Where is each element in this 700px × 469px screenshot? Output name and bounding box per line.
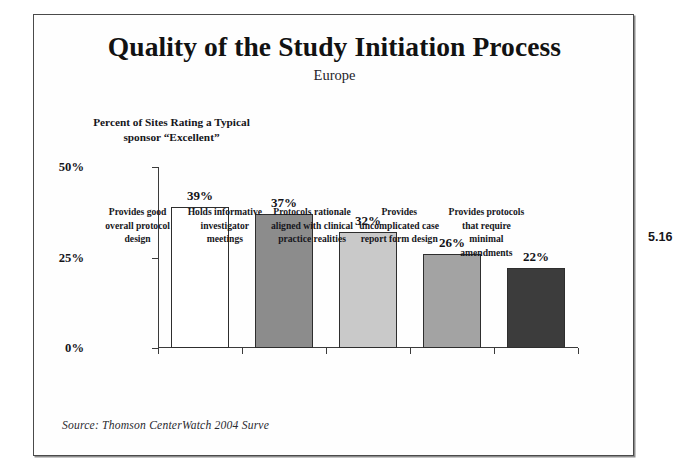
plot-wrap: 0%25%50% 39%37%32%26%22% xyxy=(90,167,590,367)
x-axis-category-label: Providesuncomplicated casereport form de… xyxy=(356,205,443,257)
x-axis-category-label-line: practice realities xyxy=(269,232,354,246)
bar[interactable] xyxy=(423,254,481,348)
title-block: Quality of the Study Initiation Process … xyxy=(34,33,635,84)
y-axis-caption: Percent of Sites Rating a Typical sponso… xyxy=(64,115,279,145)
x-axis-category-label-line: meetings xyxy=(182,232,267,246)
x-axis-category-label-line: Provides xyxy=(357,205,442,219)
bar-slot: 37% xyxy=(242,167,326,348)
y-axis-tick-label: 25% xyxy=(0,250,84,265)
y-axis-caption-line-2: sponsor “Excellent” xyxy=(123,131,219,143)
x-axis-category-label-line: Provides good xyxy=(95,205,180,219)
bar-slot: 39% xyxy=(158,167,242,348)
x-axis-tick-mark xyxy=(494,348,495,354)
x-axis-category-label-line: report form design xyxy=(357,232,442,246)
x-axis-category-label-line: amendments xyxy=(444,246,529,260)
x-axis-tick-mark xyxy=(158,348,159,354)
x-axis-category-label: Provides goodoverall protocoldesign xyxy=(94,205,181,257)
page-number: 5.16 xyxy=(648,230,672,244)
x-axis-tick-mark xyxy=(242,348,243,354)
x-axis-category-label-line: Holds informative xyxy=(182,205,267,219)
x-axis-category-label-line: Protocols rationale xyxy=(269,205,354,219)
x-axis-category-label-line: aligned with clinical xyxy=(269,219,354,233)
y-axis-tick-label: 50% xyxy=(0,160,84,175)
x-axis-category-label-line: that require minimal xyxy=(444,219,529,246)
x-axis-category-label: Holds informativeinvestigatormeetings xyxy=(181,205,268,257)
x-axis-tick-mark xyxy=(410,348,411,354)
chart-subtitle: Europe xyxy=(34,67,635,84)
source-note: Source: Thomson CenterWatch 2004 Surve xyxy=(62,419,269,432)
y-axis-tick-label: 0% xyxy=(0,341,84,356)
slide-frame: Quality of the Study Initiation Process … xyxy=(33,14,634,456)
x-axis-tick-mark xyxy=(578,348,579,354)
x-axis-category-label-line: Provides protocols xyxy=(444,205,529,219)
chart-title: Quality of the Study Initiation Process xyxy=(34,33,635,62)
x-axis-category-label-line: overall protocol xyxy=(95,219,180,233)
bar-value-label: 39% xyxy=(187,188,213,204)
bar-slot: 32% xyxy=(326,167,410,348)
x-axis-category-labels: Provides goodoverall protocoldesignHolds… xyxy=(94,205,530,257)
y-axis-caption-line-1: Percent of Sites Rating a Typical xyxy=(93,116,250,128)
x-axis-category-label: Protocols rationalealigned with clinical… xyxy=(268,205,355,257)
bar[interactable] xyxy=(507,268,565,348)
x-axis-category-label-line: investigator xyxy=(182,219,267,233)
x-axis-category-label-line: design xyxy=(95,232,180,246)
x-axis-category-label: Provides protocolsthat require minimalam… xyxy=(443,205,530,257)
x-axis-tick-mark xyxy=(326,348,327,354)
x-axis-category-label-line: uncomplicated case xyxy=(357,219,442,233)
